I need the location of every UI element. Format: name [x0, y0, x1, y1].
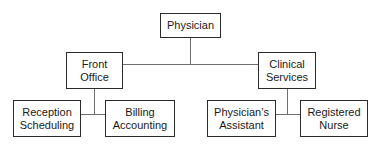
- org-chart-diagram: Physician Front Office Clinical Services…: [0, 0, 379, 145]
- connector-physician-to-spine: [190, 38, 191, 65]
- connector-front-office-down: [94, 89, 95, 115]
- node-physicians-assistant[interactable]: Physician’s Assistant: [207, 100, 276, 137]
- node-clinical-services-label-line2: Services: [266, 71, 308, 84]
- node-front-office-label-line2: Office: [80, 71, 109, 84]
- node-billing-accounting-label-line1: Billing: [125, 106, 154, 119]
- connector-spine-level1: [122, 64, 259, 65]
- node-reception-scheduling-label-line2: Scheduling: [20, 119, 74, 132]
- node-registered-nurse[interactable]: Registered Nurse: [300, 100, 368, 137]
- node-reception-scheduling[interactable]: Reception Scheduling: [13, 100, 81, 137]
- node-physician-label: Physician: [167, 19, 214, 32]
- connector-left-children-bar: [81, 114, 106, 115]
- node-reception-scheduling-label-line1: Reception: [22, 106, 72, 119]
- node-front-office[interactable]: Front Office: [66, 52, 123, 89]
- node-billing-accounting-label-line2: Accounting: [113, 119, 167, 132]
- node-physicians-assistant-label-line1: Physician’s: [214, 106, 269, 119]
- node-clinical-services-label-line1: Clinical: [269, 58, 304, 71]
- connector-right-children-bar: [276, 114, 301, 115]
- node-physician[interactable]: Physician: [160, 13, 221, 38]
- connector-clinical-services-down: [287, 89, 288, 115]
- node-clinical-services[interactable]: Clinical Services: [258, 52, 316, 89]
- node-front-office-label-line1: Front: [82, 58, 108, 71]
- node-physicians-assistant-label-line2: Assistant: [219, 119, 264, 132]
- node-registered-nurse-label-line1: Registered: [307, 106, 360, 119]
- node-registered-nurse-label-line2: Nurse: [319, 119, 348, 132]
- node-billing-accounting[interactable]: Billing Accounting: [105, 100, 175, 137]
